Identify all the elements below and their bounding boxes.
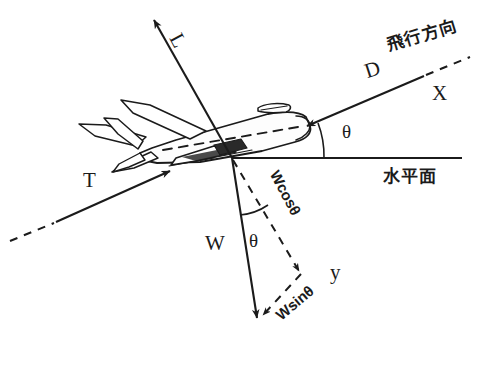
weight-label: W: [205, 233, 225, 254]
aircraft-illustration: [79, 100, 310, 172]
thrust-force-arrow: [56, 171, 170, 222]
drag-force-arrow: [307, 76, 424, 126]
force-diagram: L D 飛行方向 X θ 水平面 T W θ Wcosθ Wsinθ y: [0, 0, 486, 373]
theta-upper-arc: [318, 123, 324, 158]
theta-lower-label: θ: [249, 231, 258, 250]
diagram-canvas: [0, 0, 486, 373]
theta-upper-label: θ: [342, 122, 351, 141]
thrust-label: T: [83, 170, 96, 191]
flight-direction-dashed-line: [426, 57, 470, 75]
x-axis-label: X: [432, 83, 447, 104]
y-axis-label: y: [330, 262, 341, 283]
horizontal-plane-label: 水平面: [383, 168, 437, 185]
thrust-dashed-line: [10, 223, 54, 241]
